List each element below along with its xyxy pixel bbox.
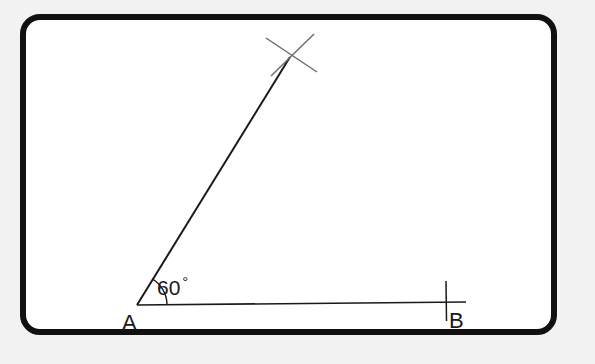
angle-measure-value: 60 [157,276,180,299]
page-background: A B 60° [0,0,595,364]
tick-mark-b [446,281,447,321]
degree-symbol-icon: ° [182,273,188,290]
angle-measure-label: 60° [157,274,188,298]
ray-a-to-cross [137,57,290,305]
baseline-ab [137,302,466,305]
vertex-label-a: A [122,312,137,334]
vertex-label-b: B [449,310,464,332]
cross-stroke-secondary-icon [271,34,314,76]
diagram-canvas [0,0,595,364]
